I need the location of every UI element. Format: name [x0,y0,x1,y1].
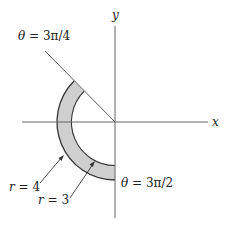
theta-end-label: θ = 3π/2 [121,176,173,190]
x-axis-label: x [212,115,219,129]
theta-start-label: θ = 3π/4 [18,29,70,43]
r-inner-label: r = 3 [38,193,69,207]
arrow-r4-pointer [40,157,62,183]
ray-theta-3pi-4 [45,51,115,122]
polar-region-diagram: y x θ = 3π/4 θ = 3π/2 r = 4 r = 3 [0,0,232,228]
y-axis-label: y [111,8,119,22]
r-outer-label: r = 4 [9,180,40,194]
